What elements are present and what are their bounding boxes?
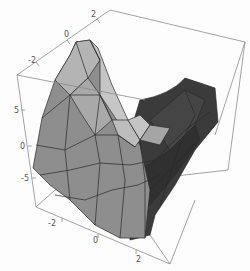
left-tick-label: -5 xyxy=(21,174,29,183)
top-tick-label: -2 xyxy=(28,56,36,65)
bottom-tick-label: 0 xyxy=(93,236,98,245)
surface-plot-svg: -2 0 2 5 0 -5 -2 0 2 xyxy=(0,0,250,271)
bottom-tick-label: 2 xyxy=(136,255,141,264)
saddle-surface xyxy=(33,40,218,240)
bottom-tick-label: -2 xyxy=(48,219,56,228)
left-tick-label: 0 xyxy=(20,142,25,151)
left-tick-label: 5 xyxy=(14,106,19,115)
top-tick-label: 0 xyxy=(64,30,69,39)
top-tick-label: 2 xyxy=(91,10,96,19)
surface-plot: -2 0 2 5 0 -5 -2 0 2 xyxy=(0,0,250,271)
